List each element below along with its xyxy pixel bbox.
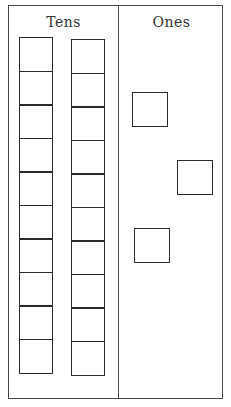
rod-block [19, 339, 53, 374]
tens-heading: Tens [9, 14, 118, 30]
rod-block [71, 274, 105, 309]
rod-block [19, 305, 53, 340]
rod-block [19, 238, 53, 273]
rod-block [71, 240, 105, 275]
rod-block [19, 138, 53, 173]
rod-block [71, 207, 105, 242]
rod-block [71, 39, 105, 74]
ones-unit-3 [134, 228, 170, 263]
rod-block [19, 205, 53, 240]
rod-block [19, 104, 53, 139]
rod-block [71, 173, 105, 208]
rod-block [19, 37, 53, 72]
column-divider [118, 6, 119, 398]
rod-block [19, 272, 53, 307]
rod-block [19, 171, 53, 206]
tens-rod-1 [19, 37, 53, 374]
ones-unit-1 [132, 92, 168, 127]
rod-block [71, 140, 105, 175]
ones-unit-2 [177, 160, 213, 195]
tens-rod-2 [71, 39, 105, 376]
rod-block [71, 106, 105, 141]
rod-block [71, 73, 105, 108]
rod-block [71, 341, 105, 376]
ones-heading: Ones [119, 14, 224, 30]
rod-block [19, 71, 53, 106]
place-value-chart: Tens Ones [8, 5, 223, 399]
rod-block [71, 307, 105, 342]
